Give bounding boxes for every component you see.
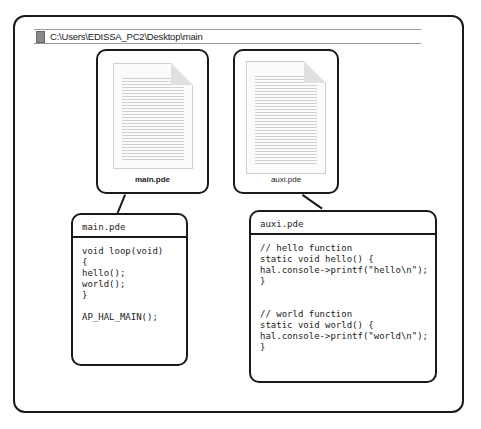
document-icon [113, 63, 193, 169]
code-content: // hello function static void hello() { … [251, 235, 435, 353]
document-icon [246, 61, 326, 174]
address-path: C:\Users\EDISSA_PC2\Desktop\main [50, 31, 203, 42]
code-content: void loop(void) { hello(); world(); } AP… [73, 238, 186, 323]
code-box-title: main.pde [73, 215, 186, 238]
code-box-title: auxi.pde [251, 212, 435, 235]
folder-icon [36, 31, 45, 43]
file-label: auxi.pde [235, 175, 337, 184]
address-bar[interactable]: C:\Users\EDISSA_PC2\Desktop\main [34, 29, 421, 44]
code-box-auxi: auxi.pde // hello function static void h… [249, 210, 437, 383]
file-icon-auxi[interactable]: auxi.pde [233, 49, 339, 194]
code-box-main: main.pde void loop(void) { hello(); worl… [71, 213, 188, 366]
file-label: main.pde [98, 175, 207, 184]
file-icon-main[interactable]: main.pde [96, 49, 209, 194]
